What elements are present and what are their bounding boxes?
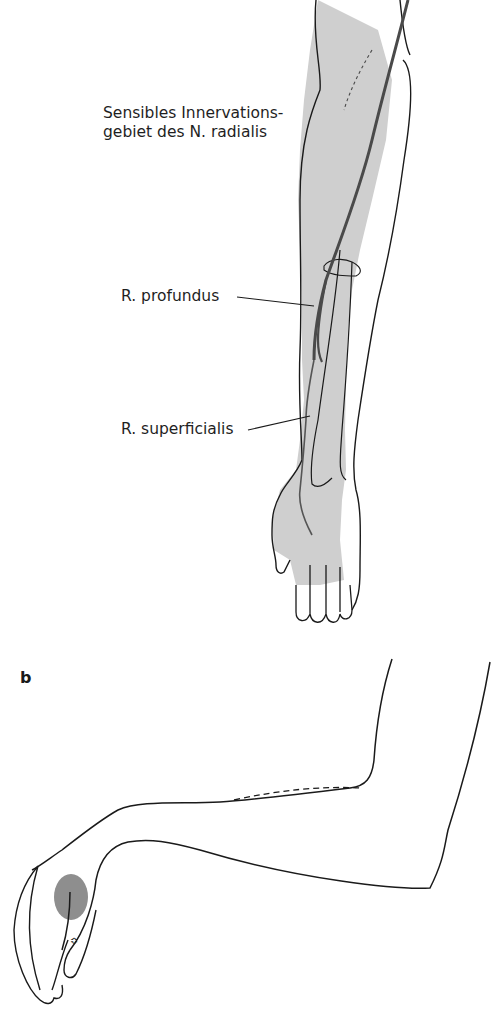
innervation-area-label: Sensibles Innervations- gebiet des N. ra… (103, 104, 283, 142)
hand-outline (14, 866, 63, 1004)
innervation-label-line2: gebiet des N. radialis (103, 123, 283, 142)
label-r-superficialis: R. superficialis (121, 420, 234, 439)
panel-letter-b: b (20, 668, 31, 687)
label-r-profundus: R. profundus (121, 287, 219, 306)
sensory-deficit-patch (54, 874, 88, 920)
thumb-outline (52, 910, 96, 990)
upper-arm-outline (32, 659, 392, 870)
innervation-shading (272, 0, 392, 585)
innervation-label-line1: Sensibles Innervations- (103, 104, 283, 123)
forearm-illustration: ≎ (0, 0, 494, 1025)
knuckle-crease: ≎ (70, 935, 78, 946)
